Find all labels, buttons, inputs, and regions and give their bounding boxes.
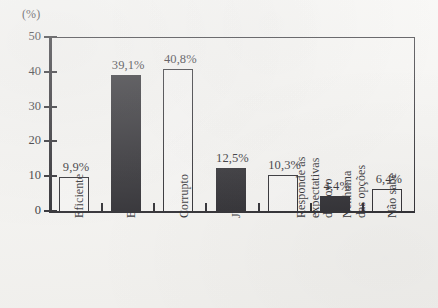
y-axis-tick-label-0: 0 [0, 204, 41, 217]
x-axis-tick-4 [258, 203, 260, 212]
y-axis-tick-label-10: 10 [0, 169, 41, 182]
y-axis-tick-0 [44, 210, 57, 212]
category-label-line: das opções [354, 165, 368, 218]
category-label-line: Não sabe [386, 173, 400, 218]
category-label-line: Justo [230, 193, 244, 218]
x-axis-category-label-2: Corrupto [178, 174, 192, 218]
bar-value-label-2: 40,8% [150, 53, 210, 66]
x-axis-category-label-1: Burocrático [125, 160, 139, 218]
x-axis-tick-2 [153, 203, 155, 212]
y-axis-unit-label: (%) [22, 8, 40, 20]
y-axis-tick-label-50: 50 [0, 30, 41, 43]
x-axis-category-label-4: Responde àsexpectativasdo povo [295, 157, 336, 218]
category-label-line: do povo [322, 157, 336, 218]
x-axis-tick-1 [101, 203, 103, 212]
bar-value-label-1: 39,1% [98, 59, 158, 72]
x-axis-category-label-5: Nenhumadas opções [341, 165, 368, 218]
y-axis-tick-10 [44, 175, 57, 177]
x-axis-category-label-3: Justo [230, 193, 244, 218]
y-axis-tick-50 [44, 36, 57, 38]
chart-page: (%) 01020304050 9,9%39,1%40,8%12,5%10,3%… [0, 0, 438, 308]
category-label-line: Nenhuma [341, 165, 355, 218]
y-axis-tick-30 [44, 106, 57, 108]
y-axis-tick-label-40: 40 [0, 65, 41, 78]
y-axis-tick-20 [44, 140, 57, 142]
y-axis-tick-label-30: 30 [0, 100, 41, 113]
bar-value-label-0: 9,9% [46, 161, 106, 174]
x-axis-tick-3 [205, 203, 207, 212]
y-axis-line [49, 36, 52, 213]
category-label-line: Corrupto [178, 174, 192, 218]
category-label-line: Burocrático [125, 160, 139, 218]
bar-value-label-3: 12,5% [203, 152, 263, 165]
x-axis-category-label-0: Eficiente [73, 174, 87, 218]
y-axis-tick-label-20: 20 [0, 134, 41, 147]
category-label-line: Eficiente [73, 174, 87, 218]
x-axis-category-label-6: Não sabe [386, 173, 400, 218]
category-label-line: Responde às [295, 157, 309, 218]
y-axis-tick-40 [44, 71, 57, 73]
